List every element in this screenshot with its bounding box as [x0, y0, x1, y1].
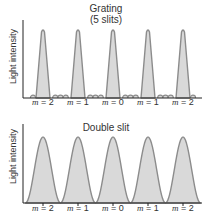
order-label-0: m = 2: [32, 203, 54, 213]
order-label-1: m = 1: [67, 97, 89, 107]
order-label-2: m = 0: [102, 203, 124, 213]
order-label-3: m = 1: [137, 97, 159, 107]
grating-title: Grating (5 slits): [0, 3, 212, 25]
order-label-3: m = 1: [137, 203, 159, 213]
grating-curve: [30, 30, 195, 98]
order-label-0: m = 2: [32, 97, 54, 107]
order-label-2: m = 0: [102, 97, 124, 107]
grating-title-line1: Grating: [0, 3, 212, 14]
double-slit-panel: Double slit Light intensity m = 2m = 1m …: [0, 107, 212, 214]
grating-title-line2: (5 slits): [0, 14, 212, 25]
double-slit-curve: [26, 137, 201, 203]
double-slit-title: Double slit: [0, 122, 212, 133]
order-label-4: m = 2: [172, 97, 194, 107]
order-label-1: m = 1: [67, 203, 89, 213]
grating-panel: Grating (5 slits) Light intensity m = 2m…: [0, 0, 212, 107]
grating-y-axis-label: Light intensity: [8, 29, 18, 84]
double-slit-y-axis-label: Light intensity: [8, 129, 18, 184]
order-label-4: m = 2: [172, 203, 194, 213]
